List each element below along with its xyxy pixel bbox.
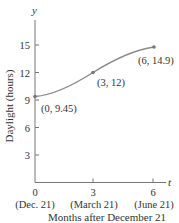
x-tick-6-date: (June 21) [134, 199, 174, 211]
point-3 [91, 71, 95, 75]
point-0 [33, 95, 37, 99]
x-tick-3: 3 [90, 187, 95, 198]
y-ticks: 3 6 9 12 15 [20, 40, 40, 161]
point-label-3: (3, 12) [97, 77, 125, 89]
y-tick-6: 6 [25, 123, 30, 134]
x-ticks: 0 3 6 (Dec. 21) (March 21) (June 21) [15, 179, 174, 212]
point-label-6: (6, 14.9) [138, 55, 174, 67]
y-variable-label: y [31, 4, 37, 16]
x-tick-0-date: (Dec. 21) [15, 199, 55, 211]
y-tick-12: 12 [20, 68, 31, 79]
y-tick-3: 3 [25, 150, 30, 161]
x-tick-0: 0 [32, 187, 37, 198]
x-variable-label: t [168, 176, 172, 188]
y-tick-9: 9 [25, 95, 30, 106]
x-tick-6: 6 [150, 187, 155, 198]
y-tick-15: 15 [20, 40, 31, 51]
point-label-0: (0, 9.45) [41, 103, 77, 115]
point-6 [152, 45, 156, 49]
y-axis-title: Daylight (hours) [3, 69, 16, 142]
daylight-chart: y t 3 6 9 12 15 0 3 6 (Dec. 21) (March 2… [0, 0, 179, 223]
x-tick-3-date: (March 21) [70, 199, 118, 211]
x-axis-title: Months after December 21 [48, 211, 166, 223]
